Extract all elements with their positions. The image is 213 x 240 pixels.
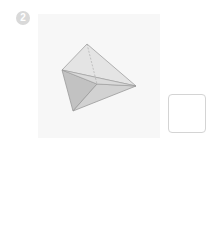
- answer-box[interactable]: [168, 94, 206, 133]
